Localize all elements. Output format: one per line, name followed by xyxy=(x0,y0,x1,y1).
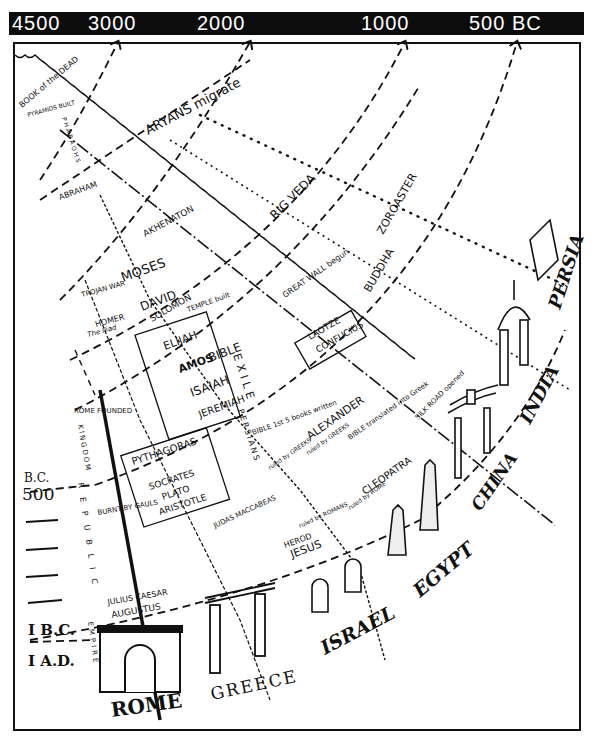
label-pythagoras: PYTHAGORAS xyxy=(130,436,198,467)
label-akhenaton: AKHENATON xyxy=(141,204,195,239)
civ-china: CHINA xyxy=(467,449,521,515)
label-burnt-by-gauls: BURNT BY GAULS xyxy=(97,498,159,517)
side-scale-ticks xyxy=(26,520,62,603)
label-1ad: I A.D. xyxy=(28,652,75,670)
label-bc-500: 500 xyxy=(22,484,54,504)
israel-tablets xyxy=(312,559,361,612)
china-gate xyxy=(448,385,498,478)
label-silk-road: SILK ROAD opened xyxy=(414,369,466,421)
label-isaiah: ISAIAH xyxy=(188,373,231,400)
label-zoroaster: ZOROASTER xyxy=(374,171,419,237)
label-pyramids: PYRAMIDS BUILT xyxy=(26,98,75,118)
label-1bc: I B.C. xyxy=(28,621,75,639)
civ-greece: GREECE xyxy=(209,666,300,704)
arc-buddha xyxy=(75,85,420,410)
label-temple: TEMPLE built xyxy=(185,291,231,314)
label-abraham: ABRAHAM xyxy=(58,180,99,202)
label-kingdom: KINGDOM xyxy=(76,424,92,473)
timeline-diagram: BOOK of the DEAD PYRAMIDS BUILT PHARAOHS… xyxy=(0,0,592,743)
civ-egypt: EGYPT xyxy=(408,536,480,601)
rome-arch xyxy=(98,626,182,692)
label-ruled-romans: ruled by ROMANS xyxy=(297,500,349,530)
label-rig-veda: RIG VEDA xyxy=(267,171,318,222)
civ-india: INDIA xyxy=(515,361,564,427)
label-bc: B.C. xyxy=(24,471,49,485)
label-rome-founded: ROME FOUNDED xyxy=(74,407,132,415)
label-great-wall: GREAT WALL begun xyxy=(281,247,351,300)
label-elijah: ELIJAH xyxy=(162,329,199,353)
label-republic: REPUBLIC xyxy=(76,482,100,593)
civ-rome: ROME xyxy=(109,688,183,722)
greece-columns xyxy=(205,583,275,673)
india-temple xyxy=(498,280,530,385)
label-moses: MOSES xyxy=(119,255,168,285)
label-buddha: BUDDHA xyxy=(361,246,397,295)
label-persians: PERSIANS xyxy=(236,408,262,463)
rome-early xyxy=(75,350,95,395)
label-judas-maccabeas: JUDAS MACCABEAS xyxy=(212,494,278,530)
